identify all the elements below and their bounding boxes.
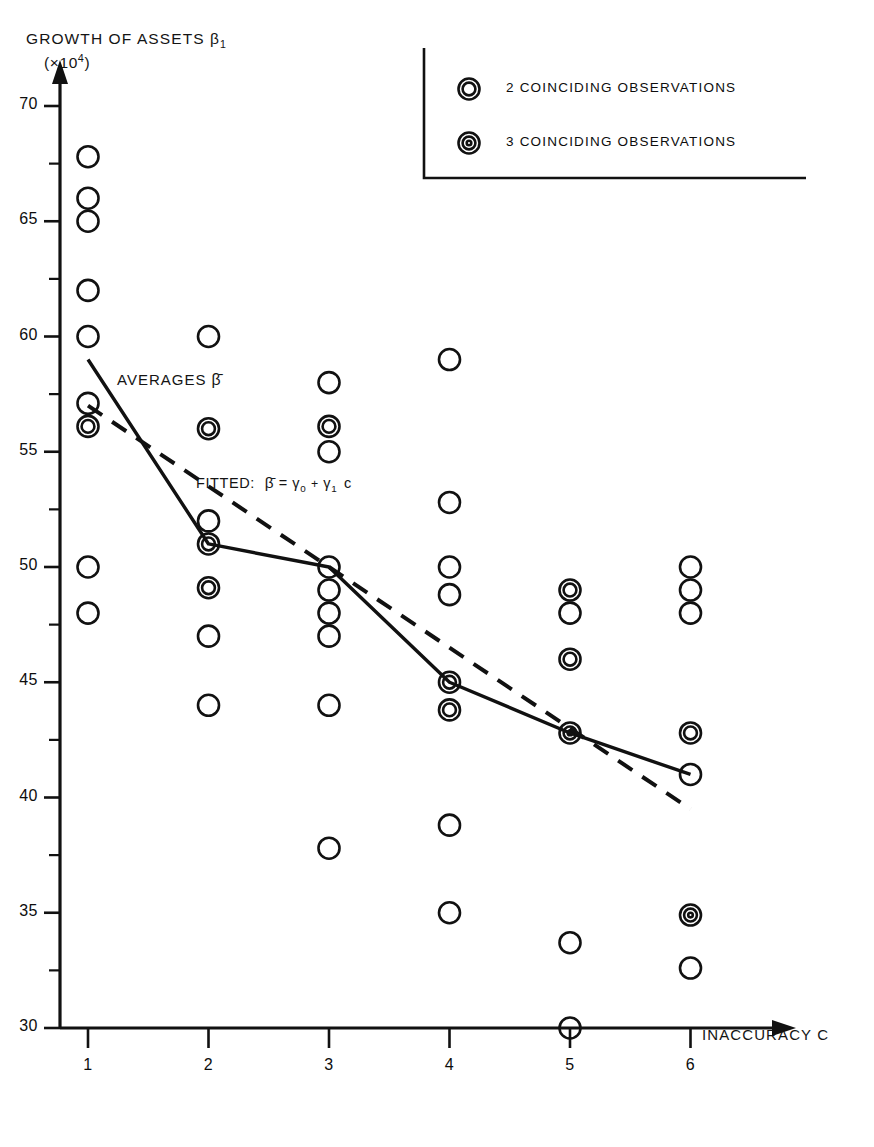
marker-ring xyxy=(202,581,215,594)
marker-ring xyxy=(688,913,693,918)
marker-ring xyxy=(82,420,95,433)
marker-ring xyxy=(439,349,460,370)
fitted-line xyxy=(88,406,691,809)
data-point-marker xyxy=(78,557,99,578)
marker-ring xyxy=(319,626,340,647)
data-point-marker xyxy=(198,577,219,598)
legend-marker-2-rings xyxy=(459,79,480,100)
data-point-marker xyxy=(439,557,460,578)
data-point-marker xyxy=(319,416,340,437)
marker-ring xyxy=(78,146,99,167)
marker-ring xyxy=(202,422,215,435)
marker-ring xyxy=(680,603,701,624)
marker-ring xyxy=(467,141,472,146)
marker-ring xyxy=(684,909,697,922)
marker-ring xyxy=(439,492,460,513)
data-point-marker xyxy=(198,695,219,716)
marker-ring xyxy=(439,902,460,923)
marker-ring xyxy=(78,326,99,347)
data-point-marker xyxy=(78,211,99,232)
data-point-marker xyxy=(680,603,701,624)
data-point-marker xyxy=(198,326,219,347)
legend-frame xyxy=(424,48,806,178)
marker-ring xyxy=(198,626,219,647)
marker-ring xyxy=(323,420,336,433)
data-point-marker xyxy=(198,626,219,647)
marker-ring xyxy=(463,137,476,150)
data-point-marker xyxy=(439,902,460,923)
marker-ring xyxy=(319,372,340,393)
marker-ring xyxy=(78,211,99,232)
data-point-marker xyxy=(439,584,460,605)
marker-ring xyxy=(319,603,340,624)
data-points xyxy=(78,146,702,1038)
data-point-marker xyxy=(78,326,99,347)
marker-ring xyxy=(78,280,99,301)
data-point-marker xyxy=(319,695,340,716)
data-point-marker xyxy=(319,603,340,624)
legend-box-border xyxy=(424,48,806,178)
data-point-marker xyxy=(319,580,340,601)
data-point-marker xyxy=(78,280,99,301)
data-point-marker xyxy=(439,699,460,720)
data-point-marker xyxy=(560,603,581,624)
marker-ring xyxy=(560,932,581,953)
marker-ring xyxy=(564,653,577,666)
marker-ring xyxy=(564,584,577,597)
marker-ring xyxy=(439,557,460,578)
data-point-marker xyxy=(680,557,701,578)
y-axis-arrowhead xyxy=(52,60,68,84)
data-point-marker xyxy=(680,722,701,743)
marker-ring xyxy=(680,557,701,578)
data-point-marker xyxy=(319,838,340,859)
marker-ring xyxy=(78,188,99,209)
marker-ring xyxy=(319,838,340,859)
data-point-marker xyxy=(319,626,340,647)
data-point-marker xyxy=(439,492,460,513)
marker-ring xyxy=(443,704,456,717)
marker-ring xyxy=(198,326,219,347)
scatter-chart-figure: GROWTH OF ASSETS β1 (×104) INACCURACY C … xyxy=(0,0,874,1147)
plot-canvas xyxy=(0,0,874,1147)
axis-ticks xyxy=(44,106,691,1048)
data-point-marker xyxy=(439,815,460,836)
data-point-marker xyxy=(439,349,460,370)
data-point-marker xyxy=(198,510,219,531)
data-point-marker xyxy=(319,441,340,462)
data-point-marker xyxy=(78,603,99,624)
data-point-marker xyxy=(560,580,581,601)
marker-ring xyxy=(78,603,99,624)
marker-ring xyxy=(198,510,219,531)
marker-ring xyxy=(439,584,460,605)
data-point-marker xyxy=(680,958,701,979)
marker-ring xyxy=(680,580,701,601)
data-point-marker xyxy=(78,146,99,167)
marker-ring xyxy=(560,603,581,624)
marker-ring xyxy=(463,83,476,96)
marker-ring xyxy=(78,557,99,578)
marker-ring xyxy=(319,580,340,601)
data-point-marker xyxy=(680,905,701,926)
marker-ring xyxy=(319,695,340,716)
data-point-marker xyxy=(319,372,340,393)
data-point-marker xyxy=(560,649,581,670)
marker-ring xyxy=(684,727,697,740)
marker-ring xyxy=(680,958,701,979)
data-point-marker xyxy=(78,416,99,437)
data-point-marker xyxy=(78,188,99,209)
averages-line xyxy=(88,360,691,775)
marker-ring xyxy=(319,441,340,462)
axes-lines xyxy=(52,60,796,1036)
data-point-marker xyxy=(680,580,701,601)
marker-ring xyxy=(198,695,219,716)
legend-markers xyxy=(459,79,480,154)
data-point-marker xyxy=(560,932,581,953)
marker-ring xyxy=(439,815,460,836)
trend-lines xyxy=(88,360,691,809)
x-axis-arrowhead xyxy=(772,1020,796,1036)
data-point-marker xyxy=(198,418,219,439)
legend-marker-3-rings xyxy=(459,133,480,154)
